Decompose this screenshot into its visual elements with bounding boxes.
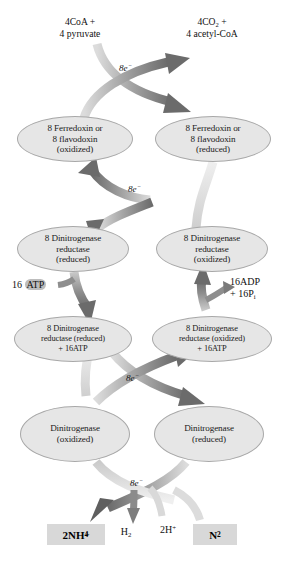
ferredoxin-red-line2: 8 flavodoxin [185, 134, 240, 145]
pi-text: + 16P [230, 288, 254, 299]
atp-word: ATP [25, 279, 47, 290]
nh4-superscript: + [85, 530, 89, 539]
node-reductase-reduced-plus-atp[interactable]: 8 Dinitrogenase reductase (reduced) + 16… [14, 316, 132, 362]
label-coa-line1: 4CoA + [38, 16, 122, 28]
node-dinitrogenase-oxidized[interactable]: Dinitrogenase (oxidized) [20, 406, 130, 462]
h2-text: H [121, 526, 128, 537]
reductase-ox-atp-line1: 8 Dinitrogenase [179, 324, 245, 334]
reductase-red-line1: 8 Dinitrogenase [45, 233, 101, 244]
label-co2-acetyl-coa: 4CO2 + 4 acetyl-CoA [156, 16, 268, 40]
electron-count-4: 8e [130, 478, 139, 488]
reductase-ox-line3: (oxidized) [184, 254, 240, 265]
electron-minus-3: − [135, 372, 139, 379]
hplus-text: 2H [160, 524, 172, 535]
node-dinitrogenase-reductase-oxidized[interactable]: 8 Dinitrogenase reductase (oxidized) [156, 226, 268, 272]
hplus-superscript: + [172, 524, 176, 531]
electron-minus-1: − [128, 62, 132, 69]
electron-label-2: 8e− [128, 183, 141, 194]
dinitrogenase-red-line1: Dinitrogenase [184, 423, 234, 434]
dinitrogenase-ox-line2: (oxidized) [50, 434, 100, 445]
electron-count-3: 8e [126, 373, 135, 383]
adp-line1: 16ADP [230, 276, 282, 288]
ferredoxin-red-line1: 8 Ferredoxin or [185, 123, 240, 134]
electron-label-4: 8e− [130, 477, 143, 488]
n2-subscript: 2 [217, 530, 221, 539]
reductase-red-atp-line2: reductase (reduced) [41, 334, 105, 344]
reductase-ox-line1: 8 Dinitrogenase [184, 233, 240, 244]
reductase-ox-line2: reductase [184, 244, 240, 255]
reductase-red-line2: reductase [45, 244, 101, 255]
electron-count-1: 8e [119, 63, 128, 73]
label-dinitrogen-boxed: N2 [193, 524, 237, 545]
pi-subscript: i [254, 293, 256, 300]
label-hydrogen-gas: H2 [110, 526, 142, 539]
node-dinitrogenase-reductase-reduced[interactable]: 8 Dinitrogenase reductase (reduced) [17, 226, 129, 272]
co2-plus: + [219, 16, 227, 27]
label-proton: 2H+ [150, 524, 186, 536]
node-dinitrogenase-reduced[interactable]: Dinitrogenase (reduced) [154, 406, 264, 462]
node-reductase-oxidized-plus-atp[interactable]: 8 Dinitrogenase reductase (oxidized) + 1… [152, 316, 272, 362]
ferredoxin-ox-line1: 8 Ferredoxin or [47, 123, 102, 134]
adp-line2: + 16Pi [230, 288, 282, 301]
electron-minus-2: − [137, 183, 141, 190]
reductase-red-line3: (reduced) [45, 254, 101, 265]
ferredoxin-red-line3: (reduced) [185, 144, 240, 155]
dinitrogenase-ox-line1: Dinitrogenase [50, 423, 100, 434]
atp-count: 16 [12, 279, 25, 290]
co2-text: 4CO [197, 16, 215, 27]
h2-subscript: 2 [128, 531, 131, 538]
label-acetyl-coa-line2: 4 acetyl-CoA [156, 28, 268, 40]
reductase-ox-atp-line2: reductase (oxidized) [179, 334, 245, 344]
reductase-red-atp-line1: 8 Dinitrogenase [41, 324, 105, 334]
nitrogen-fixation-diagram: 4CoA + 4 pyruvate 4CO2 + 4 acetyl-CoA 8e… [0, 0, 284, 565]
electron-count-2: 8e [128, 184, 137, 194]
electron-label-3: 8e− [126, 372, 139, 383]
label-16-atp: 16 ATP [12, 279, 46, 290]
label-pyruvate-line2: 4 pyruvate [38, 28, 122, 40]
electron-label-1: 8e− [119, 62, 132, 73]
reductase-ox-atp-line3: + 16ATP [179, 344, 245, 354]
node-ferredoxin-reduced[interactable]: 8 Ferredoxin or 8 flavodoxin (reduced) [155, 116, 271, 162]
label-16adp-16pi: 16ADP + 16Pi [230, 276, 282, 301]
ferredoxin-ox-line2: 8 flavodoxin [47, 134, 102, 145]
electron-minus-4: − [139, 477, 143, 484]
ferredoxin-ox-line3: (oxidized) [47, 144, 102, 155]
label-coa-pyruvate: 4CoA + 4 pyruvate [38, 16, 122, 39]
node-layer: 4CoA + 4 pyruvate 4CO2 + 4 acetyl-CoA 8e… [0, 0, 284, 565]
n2-text: N [209, 529, 217, 541]
dinitrogenase-red-line2: (reduced) [184, 434, 234, 445]
label-co2-line1: 4CO2 + [156, 16, 268, 28]
nh4-text: 2NH [63, 529, 85, 541]
label-ammonium-boxed: 2NH4+ [47, 524, 105, 545]
reductase-red-atp-line3: + 16ATP [41, 344, 105, 354]
node-ferredoxin-oxidized[interactable]: 8 Ferredoxin or 8 flavodoxin (oxidized) [17, 116, 133, 162]
